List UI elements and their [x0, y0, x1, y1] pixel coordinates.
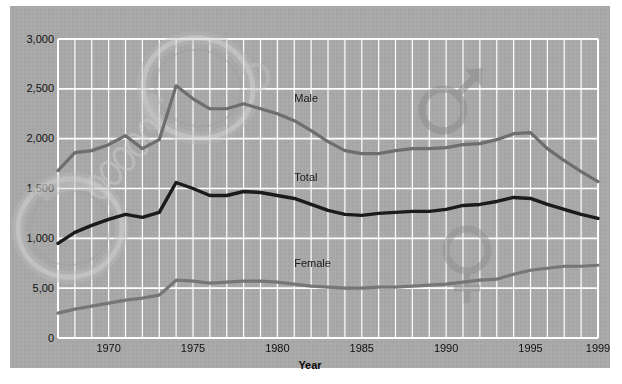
- series-label-female: Female: [294, 258, 331, 269]
- x-axis-title: Year: [10, 359, 610, 371]
- series-line-male: [58, 86, 598, 182]
- x-axis-tick-label: 1980: [265, 342, 289, 354]
- x-axis-tick-labels: 1970197519801985199019951999: [58, 342, 598, 358]
- x-axis-tick-label: 1970: [96, 342, 120, 354]
- x-axis-tick-label: 1995: [518, 342, 542, 354]
- chart-canvas: 05,001,0001,5002,0002,5003,000: [10, 6, 610, 368]
- series-line-total: [58, 183, 598, 244]
- x-axis-tick-label: 1975: [181, 342, 205, 354]
- x-axis-tick-label: 1990: [434, 342, 458, 354]
- series-line-female: [58, 265, 598, 313]
- x-axis-tick-label: 1999: [586, 342, 610, 354]
- chart-figure: 05,001,0001,5002,0002,5003,000: [0, 0, 622, 384]
- series-label-male: Male: [294, 93, 318, 104]
- x-axis-tick-label: 1985: [350, 342, 374, 354]
- data-series-layer: [58, 39, 598, 338]
- series-label-total: Total: [294, 172, 317, 183]
